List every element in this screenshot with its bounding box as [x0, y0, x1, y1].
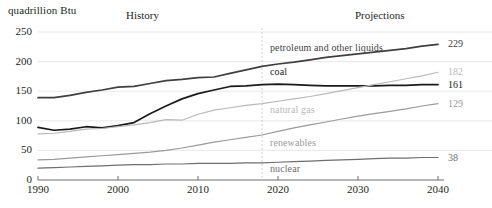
energy-consumption-line-chart: quadrillion Btu History Projections 0501… — [0, 0, 492, 208]
series-line-renewables — [38, 104, 438, 160]
x-axis-tick-label: 2040 — [415, 183, 461, 195]
series-label-coal: coal — [270, 66, 287, 77]
y-axis-tick-label: 100 — [4, 114, 32, 126]
series-end-value-nuclear: 38 — [448, 152, 458, 163]
y-axis-tick-label: 250 — [4, 25, 32, 37]
series-label-nuclear: nuclear — [270, 163, 300, 174]
chart-plot-area — [0, 0, 492, 208]
x-axis-tick-label: 2000 — [95, 183, 141, 195]
series-line-natural-gas — [38, 72, 438, 134]
y-axis-tick-label: 150 — [4, 84, 32, 96]
series-end-value-coal: 161 — [448, 79, 463, 90]
series-label-renewables: renewables — [270, 137, 316, 148]
x-axis-tick-label: 2030 — [335, 183, 381, 195]
series-line-nuclear — [38, 158, 438, 169]
series-end-value-petroleum-and-other-liquids: 229 — [448, 38, 463, 49]
series-end-value-natural-gas: 182 — [448, 66, 463, 77]
y-axis-tick-label: 50 — [4, 143, 32, 155]
x-axis-tick-label: 1990 — [15, 183, 61, 195]
y-axis-tick-label: 200 — [4, 55, 32, 67]
x-axis-tick-label: 2010 — [175, 183, 221, 195]
series-label-natural-gas: natural gas — [270, 104, 315, 115]
series-label-petroleum-and-other-liquids: petroleum and other liquids — [270, 42, 383, 53]
series-end-value-renewables: 129 — [448, 98, 463, 109]
x-axis-tick-label: 2020 — [255, 183, 301, 195]
